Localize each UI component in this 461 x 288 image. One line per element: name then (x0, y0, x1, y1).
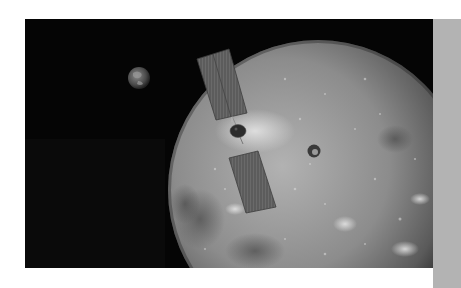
earth-icon (128, 67, 150, 89)
side-gray-strip (433, 19, 461, 288)
crater-icon (308, 145, 321, 158)
scene-illustration (25, 19, 433, 268)
space-photo (25, 19, 433, 268)
spacecraft-body (230, 125, 246, 138)
